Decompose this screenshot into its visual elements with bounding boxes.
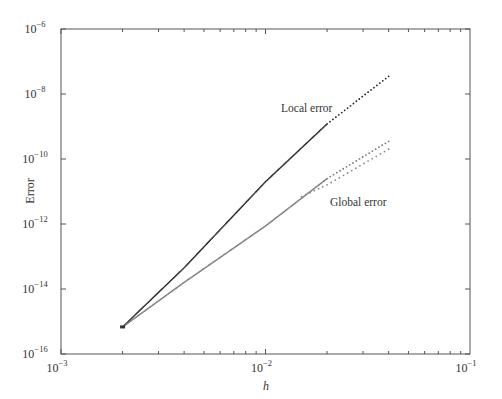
x-tick-label: 10−1 [455, 358, 476, 375]
local-error-label: Local error [281, 102, 333, 114]
y-tick-label: 10−14 [22, 279, 48, 296]
start-marker [120, 325, 125, 328]
global-error-label: Global error [330, 196, 387, 208]
series-global-error-lower-branch [301, 148, 390, 197]
chart: 10−310−210−110−610−810−1010−1210−1410−16… [0, 0, 502, 399]
axis-ticks [61, 29, 470, 354]
tick-labels: 10−310−210−110−610−810−1010−1210−1410−16 [22, 19, 476, 375]
x-tick-label: 10−2 [251, 358, 272, 375]
y-tick-label: 10−12 [22, 214, 47, 231]
y-tick-label: 10−8 [24, 84, 45, 101]
y-axis-label: Error [23, 178, 37, 203]
y-tick-label: 10−10 [22, 149, 47, 166]
series-global-error [122, 140, 390, 327]
x-tick-label: 10−3 [46, 358, 67, 375]
x-axis-label: h [263, 379, 269, 393]
y-tick-label: 10−16 [22, 344, 47, 361]
plot-frame [61, 29, 470, 354]
y-tick-label: 10−6 [24, 19, 45, 36]
